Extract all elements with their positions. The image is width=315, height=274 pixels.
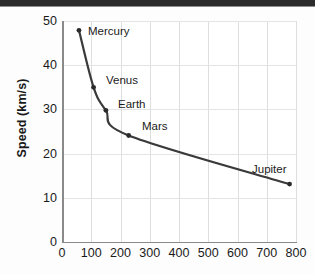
point-label-mercury: Mercury	[88, 26, 130, 38]
chart-page: Speed (km/s) 01020304050 010020030040050…	[0, 0, 315, 274]
series-line	[79, 30, 290, 184]
data-point-marker	[103, 108, 108, 113]
data-point-marker	[287, 182, 292, 187]
chart-figure: Speed (km/s) 01020304050 010020030040050…	[0, 7, 315, 274]
point-label-earth: Earth	[118, 99, 146, 111]
data-series-layer	[0, 7, 315, 274]
data-point-marker	[126, 133, 131, 138]
data-point-marker	[91, 85, 96, 90]
point-label-jupiter: Jupiter	[252, 164, 287, 176]
point-label-mars: Mars	[142, 121, 168, 133]
data-point-marker	[77, 28, 82, 33]
point-label-venus: Venus	[106, 75, 138, 87]
